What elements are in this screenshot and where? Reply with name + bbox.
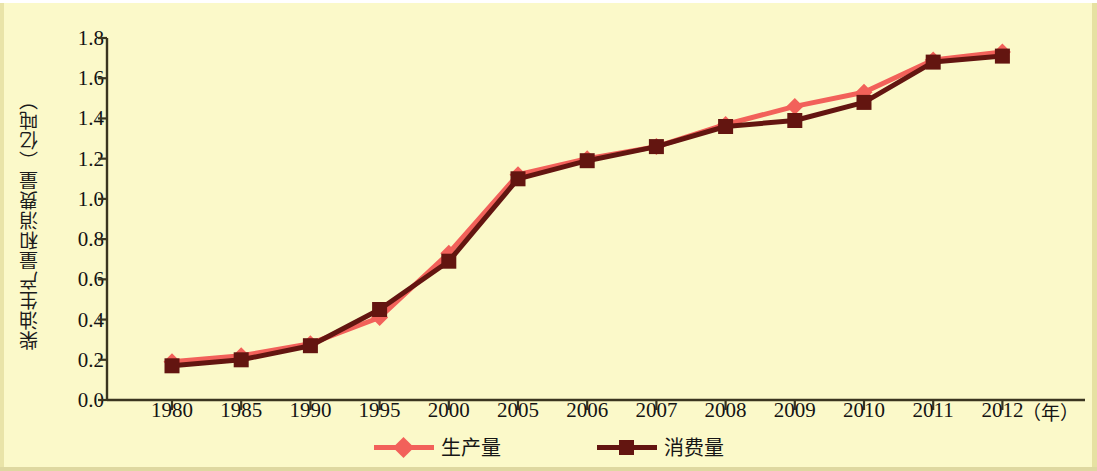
x-axis-tick-label: 1990	[289, 398, 331, 423]
axis-lines	[107, 38, 1085, 400]
square-marker	[649, 139, 664, 154]
diamond-marker	[786, 98, 803, 115]
square-marker	[303, 338, 318, 353]
series-line	[172, 56, 1002, 366]
square-marker	[857, 95, 872, 110]
x-axis-tick-label: 2000	[428, 398, 470, 423]
x-axis-unit-label: （年）	[1022, 398, 1079, 425]
square-marker	[995, 49, 1010, 64]
x-axis-tick-label: 2009	[774, 398, 816, 423]
data-series-group	[164, 44, 1011, 374]
figure-bottom-edge	[0, 467, 1097, 471]
legend-entry[interactable]: 生产量	[374, 432, 501, 461]
x-axis-tick-label: 1980	[151, 398, 193, 423]
x-axis-tick-label: 2012	[981, 398, 1023, 423]
x-axis-tick-label: 2006	[566, 398, 608, 423]
legend-entry[interactable]: 消费量	[597, 432, 724, 461]
square-marker	[580, 153, 595, 168]
square-marker	[234, 352, 249, 367]
x-axis-tick-label: 2008	[705, 398, 747, 423]
square-marker	[787, 113, 802, 128]
square-marker	[165, 358, 180, 373]
chart-legend: 生产量消费量	[0, 432, 1097, 461]
square-marker	[372, 302, 387, 317]
square-marker	[441, 254, 456, 269]
y-axis-ticks	[98, 38, 107, 400]
x-axis-tick-label: 2005	[497, 398, 539, 423]
legend-label: 消费量	[664, 432, 724, 461]
square-marker	[718, 119, 733, 134]
legend-swatch	[597, 436, 657, 458]
square-marker	[926, 55, 941, 70]
x-axis-tick-label: 2007	[635, 398, 677, 423]
series-line	[172, 52, 1002, 362]
x-axis-tick-label: 1985	[220, 398, 262, 423]
legend-label: 生产量	[441, 432, 501, 461]
x-axis-tick-label: 2011	[913, 398, 954, 423]
x-axis-tick-label: 1995	[359, 398, 401, 423]
chart-figure: 柴油生产量和消费量（亿吨） 0.00.20.40.60.81.01.21.41.…	[0, 0, 1097, 471]
square-marker	[511, 171, 526, 186]
figure-right-edge	[1092, 0, 1097, 471]
data-series	[165, 49, 1010, 374]
x-axis-tick-label: 2010	[843, 398, 885, 423]
square-marker-icon	[619, 440, 634, 455]
figure-left-edge	[0, 0, 4, 471]
legend-swatch	[374, 436, 434, 458]
diamond-marker-icon	[392, 436, 413, 457]
